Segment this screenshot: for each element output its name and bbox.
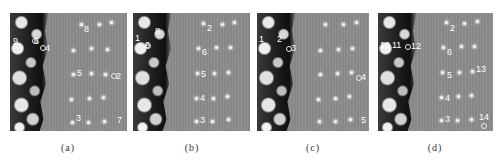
spot <box>324 23 327 26</box>
spot <box>336 72 339 75</box>
spot <box>334 97 337 100</box>
point-marker <box>481 123 487 129</box>
spot <box>90 47 93 50</box>
spot <box>317 98 320 101</box>
caption-d: (d) <box>415 142 455 153</box>
point-label: 2 <box>207 24 212 33</box>
point-label: 3 <box>200 116 205 125</box>
spot <box>440 96 443 99</box>
point-label: 7 <box>117 116 122 125</box>
point-label: 5 <box>77 69 82 78</box>
spot <box>334 120 337 123</box>
point-label: 2 <box>116 72 121 81</box>
spot <box>457 95 460 98</box>
spot <box>227 118 230 121</box>
spot <box>80 23 83 26</box>
spot <box>463 22 466 25</box>
spot <box>215 46 218 49</box>
spot <box>202 22 205 25</box>
point-label: 10 <box>380 41 390 50</box>
spot <box>106 48 109 51</box>
point-label: 5 <box>361 116 366 125</box>
caption-b: (b) <box>172 142 212 153</box>
spot <box>212 97 215 100</box>
spot <box>476 20 479 23</box>
point-label: 6 <box>34 37 39 46</box>
spot <box>470 118 473 121</box>
point-label: 5 <box>201 70 206 79</box>
panel-d: 10 11 12 2 6 5 13 4 3 14 <box>378 13 493 131</box>
point-label: 4 <box>361 73 366 82</box>
point-label: 2 <box>450 24 455 33</box>
point-label: 5 <box>447 71 452 80</box>
point-label: 9 <box>145 41 150 50</box>
spot <box>348 95 351 98</box>
spot <box>103 120 106 123</box>
point-label: 2 <box>277 35 282 44</box>
spot <box>319 73 322 76</box>
point-label: 3 <box>445 115 450 124</box>
point-label: 3 <box>291 44 296 53</box>
spot <box>442 46 445 49</box>
spot <box>226 95 229 98</box>
spot <box>355 21 358 24</box>
spot <box>211 120 214 123</box>
point-label: 11 <box>392 41 401 50</box>
spot <box>337 48 340 51</box>
spot <box>440 119 443 122</box>
caption-a: (a) <box>48 142 88 153</box>
point-label: 1 <box>135 34 140 43</box>
spot <box>70 98 73 101</box>
spot <box>90 72 93 75</box>
spot <box>98 23 101 26</box>
point-label: 9 <box>13 37 18 46</box>
spot <box>227 71 230 74</box>
point-label: 12 <box>411 42 421 51</box>
point-label: 6 <box>202 48 207 57</box>
spot <box>197 47 200 50</box>
dark-edge-region <box>133 13 171 131</box>
spot <box>471 70 474 73</box>
spot <box>456 119 459 122</box>
spot <box>473 45 476 48</box>
spot <box>102 96 105 99</box>
spot <box>351 47 354 50</box>
spot <box>319 49 322 52</box>
spot <box>195 97 198 100</box>
spot <box>110 21 113 24</box>
point-label: 13 <box>476 65 486 74</box>
panel-c: 1 2 3 4 5 <box>257 13 369 131</box>
panel-a: 8 9 6 4 5 2 3 7 <box>10 13 127 131</box>
spot <box>350 71 353 74</box>
spot <box>470 94 473 97</box>
point-label: 8 <box>84 25 89 34</box>
dark-edge-region <box>10 13 48 131</box>
point-label: 4 <box>445 94 450 103</box>
spot <box>441 71 444 74</box>
spot <box>458 71 461 74</box>
point-label: 8 <box>155 27 160 36</box>
spot <box>196 72 199 75</box>
caption-c: (c) <box>293 142 333 153</box>
spot <box>195 120 198 123</box>
spot <box>213 72 216 75</box>
dark-edge-region <box>257 13 295 131</box>
spot <box>229 46 232 49</box>
spot <box>88 97 91 100</box>
spot <box>460 45 463 48</box>
spot <box>72 73 75 76</box>
point-label: 14 <box>479 113 489 122</box>
spot <box>87 121 90 124</box>
spot <box>342 23 345 26</box>
spot <box>71 121 74 124</box>
spot <box>445 21 448 24</box>
point-label: 4 <box>45 44 50 53</box>
spot <box>104 73 107 76</box>
dark-edge-region <box>378 13 416 131</box>
spot <box>221 23 224 26</box>
point-label: 6 <box>447 48 452 57</box>
point-label: 1 <box>259 35 264 44</box>
panel-b: 1 8 9 2 6 5 4 3 <box>133 13 250 131</box>
spot <box>318 120 321 123</box>
spot <box>349 118 352 121</box>
